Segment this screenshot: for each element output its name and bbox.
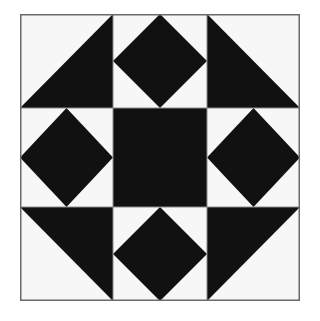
quilt-block-graphic [20,14,300,301]
cell-r1-c1-solid [113,108,207,207]
quilt-block: Quilt block [20,14,300,301]
